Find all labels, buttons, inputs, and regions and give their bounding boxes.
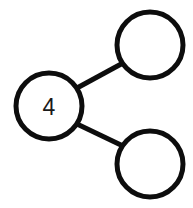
node-child-top[interactable] [117, 12, 183, 78]
edge-root-to-bottom-node [77, 124, 123, 146]
top-child-node-circle[interactable] [117, 12, 183, 78]
root-node-label: 4 [43, 94, 56, 120]
bottom-child-node-circle[interactable] [117, 131, 183, 197]
node-root[interactable]: 4 [16, 73, 82, 139]
node-child-bottom[interactable] [117, 131, 183, 197]
diagram-canvas: 4 [0, 0, 193, 208]
node-group: 4 [16, 12, 183, 197]
edge-root-to-top-node [77, 63, 123, 88]
node-link-diagram: 4 [0, 0, 193, 208]
